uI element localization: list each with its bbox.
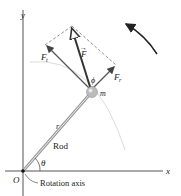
rotation-direction-arrow <box>126 24 157 54</box>
rotation-axis-label: Rotation axis <box>40 178 85 188</box>
origin-label: O <box>13 175 20 185</box>
x-axis-label: x <box>165 166 170 176</box>
mass-ball <box>87 87 98 98</box>
origin-point <box>21 169 25 173</box>
rotation-axis-leader <box>25 174 38 183</box>
theta-label: θ <box>41 158 46 168</box>
vector-arrow-mark: → <box>80 44 87 52</box>
y-axis-label: y <box>20 10 25 20</box>
mass-label: m <box>100 89 106 98</box>
theta-arc <box>35 158 40 171</box>
dashed-line <box>45 26 72 45</box>
phi-label: ϕ <box>91 76 95 85</box>
dashed-line <box>72 26 116 65</box>
radial-force-subscript: r <box>119 77 122 83</box>
rotation-diagram: y x O F → F t F r ϕ m r Rod θ Rotation a… <box>0 0 181 196</box>
rod-label: Rod <box>53 141 69 151</box>
circular-path-arc <box>30 62 125 150</box>
